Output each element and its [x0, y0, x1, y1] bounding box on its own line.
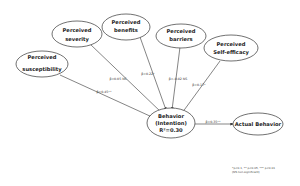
svg-text:barriers: barriers — [169, 36, 192, 42]
svg-text:Perceived: Perceived — [112, 19, 141, 25]
node-self-efficacy: Perceived Self-efficacy — [204, 35, 258, 61]
svg-text:benefits: benefits — [114, 27, 138, 33]
svg-text:severity: severity — [65, 36, 89, 43]
edge-self-efficacy — [182, 61, 220, 113]
svg-text:(Intention): (Intention) — [155, 120, 187, 126]
svg-text:susceptibility: susceptibility — [22, 66, 62, 73]
node-severity: Perceived severity — [52, 21, 102, 47]
svg-text:Actual Behavior: Actual Behavior — [235, 121, 282, 127]
coef-self-efficacy: β=0.17* — [192, 83, 206, 87]
node-behavior: Behavior (Intention) R²=0.30 — [147, 108, 195, 138]
coef-benefits: β=0.22* — [141, 72, 155, 76]
svg-text:Perceived: Perceived — [167, 28, 196, 34]
health-belief-model-diagram: Perceived susceptibility Perceived sever… — [0, 0, 300, 186]
node-barriers: Perceived barriers — [156, 24, 206, 48]
svg-text:Self-efficacy: Self-efficacy — [213, 49, 249, 56]
node-susceptibility: Perceived susceptibility — [16, 51, 68, 77]
svg-text:Perceived: Perceived — [28, 54, 57, 60]
coef-severity: β=0.05 NS — [109, 77, 126, 81]
footnote-line2: (NS non-significant) — [232, 170, 260, 174]
svg-text:Behavior: Behavior — [158, 113, 184, 119]
svg-text:Perceived: Perceived — [217, 41, 246, 47]
node-benefits: Perceived benefits — [102, 14, 150, 40]
coef-susceptibility: β=0.45** — [97, 90, 112, 94]
edge-susceptibility — [60, 75, 152, 117]
coef-actual: β=0.35** — [206, 120, 221, 124]
svg-text:R²=0.30: R²=0.30 — [159, 127, 183, 133]
node-actual-behavior: Actual Behavior — [233, 113, 283, 135]
coef-barriers: β=-0.02 NS — [169, 77, 187, 81]
svg-text:Perceived: Perceived — [63, 27, 92, 33]
